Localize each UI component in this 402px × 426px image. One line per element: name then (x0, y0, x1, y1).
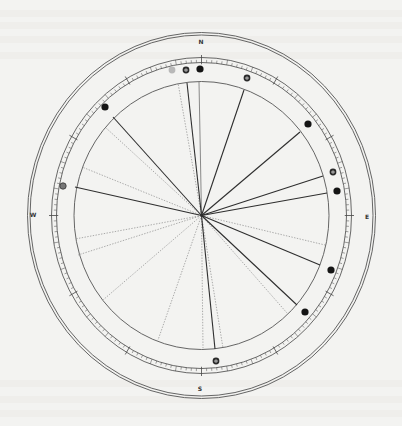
scale-tick (61, 268, 66, 270)
scale-tick (343, 247, 346, 248)
planet-ringed-icon (183, 67, 190, 74)
solid-aspect-line (75, 187, 202, 216)
scale-tick (171, 63, 172, 66)
scale-tick (241, 363, 242, 366)
scale-tick (92, 318, 94, 320)
scale-tick (103, 329, 105, 331)
scale-tick (71, 142, 73, 143)
cardinal-label-s: S (198, 385, 202, 392)
scale-tick (339, 263, 342, 264)
scale-tick (141, 355, 142, 358)
scale-tick (227, 60, 228, 65)
scale-tick (278, 345, 279, 347)
planet-dot-icon (304, 120, 311, 127)
scale-tick (330, 142, 332, 143)
scale-tick (85, 120, 87, 122)
scale-tick (338, 161, 343, 163)
scale-tick (71, 287, 73, 288)
scale-tick (82, 305, 84, 307)
scale-tick (119, 86, 121, 88)
cardinal-label-w: W (30, 211, 37, 218)
scale-tick (246, 361, 247, 364)
scale-tick (270, 351, 271, 353)
scale-tick (57, 183, 60, 184)
scale-tick (330, 287, 332, 288)
scale-tick (324, 133, 326, 134)
scale-tick (334, 152, 337, 153)
scale-tick (141, 73, 142, 76)
scale-tick (322, 301, 324, 303)
scale-tick (132, 351, 133, 353)
scale-tick (251, 359, 253, 364)
scale-tick (341, 173, 344, 174)
scale-tick (302, 326, 304, 328)
scale-tick (65, 273, 68, 274)
dotted-aspect-line (75, 216, 202, 240)
scale-tick (260, 355, 261, 358)
scale-tick (95, 322, 97, 324)
dotted-aspect-line (202, 216, 326, 246)
cardinal-label-e: E (365, 213, 369, 220)
scale-tick (87, 314, 91, 317)
scale-tick (344, 242, 349, 243)
scale-tick (57, 247, 60, 248)
planet-dot-icon (301, 308, 308, 315)
scale-tick (95, 107, 97, 109)
scale-tick (69, 283, 71, 284)
cardinal-label-n: N (198, 38, 203, 45)
scale-tick (79, 301, 81, 303)
scale-tick (334, 278, 337, 279)
scale-tick (256, 357, 257, 360)
scale-tick (105, 94, 108, 98)
scale-tick (61, 161, 66, 163)
solid-aspect-line (202, 90, 245, 216)
scale-tick (342, 253, 345, 254)
scale-tick (309, 318, 311, 320)
solid-aspect-line (202, 176, 324, 216)
dotted-aspect-line (178, 83, 202, 216)
scale-tick (166, 364, 167, 367)
scale-tick (232, 63, 233, 66)
solid-aspect-line (113, 117, 202, 216)
scale-tick (291, 336, 293, 338)
planet-ringed-icon (213, 358, 220, 365)
solid-aspect-line (202, 216, 216, 350)
solid-aspect-line (202, 216, 298, 306)
planet-dot-icon (333, 187, 340, 194)
scale-tick (265, 353, 266, 355)
scale-tick (76, 297, 78, 298)
scale-tick (341, 258, 344, 259)
scale-tick (79, 128, 81, 130)
center-point (200, 214, 202, 216)
scale-tick (111, 93, 113, 95)
scale-tick (119, 342, 121, 344)
scale-tick (150, 67, 152, 72)
scale-tick (85, 310, 87, 312)
scale-tick (316, 310, 318, 312)
scale-tick (291, 93, 293, 95)
scale-tick (99, 103, 101, 105)
scale-tick (246, 67, 247, 70)
scale-tick (67, 278, 70, 279)
scale-tick (69, 147, 71, 148)
scale-tick (332, 147, 334, 148)
scale-tick (336, 157, 339, 158)
dotted-aspect-line (105, 127, 202, 216)
dotted-aspect-line (202, 216, 288, 314)
scale-tick (283, 86, 285, 88)
scale-tick (299, 329, 301, 331)
scale-tick (299, 100, 301, 102)
dial-chart: NSEW (0, 0, 402, 426)
scale-tick (115, 339, 117, 341)
planet-ringed-icon (330, 169, 337, 176)
planet-dot-icon (327, 266, 334, 273)
scale-tick (87, 114, 91, 117)
scale-tick (99, 326, 101, 328)
scale-tick (342, 178, 345, 179)
scale-tick (256, 71, 257, 74)
scale-tick (54, 188, 59, 189)
scale-tick (123, 83, 124, 85)
scale-tick (313, 314, 317, 317)
scale-tick (146, 71, 147, 74)
scale-tick (175, 366, 176, 371)
